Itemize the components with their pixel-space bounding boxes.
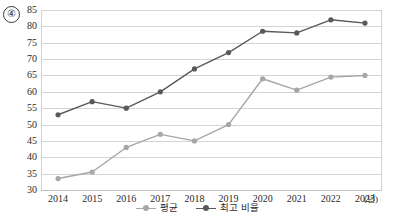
y-tick-label: 70: [7, 54, 37, 64]
y-tick-label: 45: [7, 136, 37, 146]
y-tick-label: 60: [7, 87, 37, 97]
legend-entry[interactable]: 최고 비율: [196, 203, 259, 213]
y-tick-label: 30: [7, 185, 37, 195]
gridline-45: [41, 141, 382, 142]
y-tick-label: 50: [7, 120, 37, 130]
legend-marker-icon: [196, 204, 216, 213]
y-tick-label: 55: [7, 103, 37, 113]
gridline-75: [41, 43, 382, 44]
chart-legend: 평균최고 비율: [0, 203, 395, 213]
y-tick-label: 80: [7, 21, 37, 31]
gridline-30: [41, 190, 382, 191]
line-chart-figure: ④ 858075706560555045403530 2014201520162…: [0, 0, 395, 217]
plot-area: [41, 10, 382, 190]
y-tick-label: 35: [7, 169, 37, 179]
legend-marker-icon: [136, 204, 156, 213]
legend-entry[interactable]: 평균: [136, 203, 178, 213]
gridline-80: [41, 26, 382, 27]
gridline-35: [41, 174, 382, 175]
gridline-85: [41, 10, 382, 11]
y-tick-label: 75: [7, 38, 37, 48]
gridline-65: [41, 75, 382, 76]
plot-right-border: [381, 10, 382, 190]
y-tick-label: 85: [7, 5, 37, 15]
gridline-50: [41, 125, 382, 126]
legend-label: 평균: [160, 203, 178, 213]
y-axis-line: [41, 10, 42, 190]
gridline-40: [41, 157, 382, 158]
legend-label: 최고 비율: [220, 203, 259, 213]
gridline-70: [41, 59, 382, 60]
gridline-60: [41, 92, 382, 93]
y-tick-label: 65: [7, 70, 37, 80]
y-tick-label: 40: [7, 152, 37, 162]
gridline-55: [41, 108, 382, 109]
